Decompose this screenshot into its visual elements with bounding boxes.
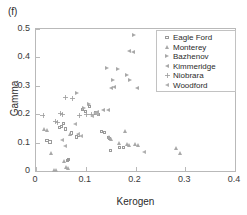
x-axis-label: Kerogen (35, 196, 236, 207)
legend-marker-icon (161, 52, 173, 61)
x-tick (235, 167, 236, 171)
panel-label: (f) (8, 6, 17, 18)
legend-item[interactable]: Kimmeridge (157, 62, 235, 72)
legend-marker-icon (161, 71, 173, 80)
legend-item[interactable]: Bazhenov (157, 52, 235, 62)
legend-item[interactable]: Niobrara (157, 71, 235, 81)
legend-item-label: Niobrara (173, 71, 204, 80)
legend-item-label: Kimmeridge (173, 62, 216, 71)
x-tick-label: 0.4 (228, 174, 241, 184)
y-tick (36, 114, 40, 115)
x-tick-label: 0 (32, 174, 37, 184)
legend-marker-icon (161, 33, 173, 42)
legend-marker-icon (161, 43, 173, 52)
y-tick (36, 86, 40, 87)
x-tick-label: 0.1 (78, 174, 91, 184)
legend-marker-icon (161, 62, 173, 71)
legend-item-label: Woodford (173, 81, 208, 90)
legend-marker-icon (161, 81, 173, 90)
x-tick (136, 167, 137, 171)
legend-item-label: Monterey (173, 43, 206, 52)
y-tick-label: 0.5 (6, 23, 30, 33)
scatter-figure: (f) 00.10.20.30.4 00.10.20.30.40.5 Kerog… (0, 0, 247, 215)
y-tick (36, 143, 40, 144)
legend-item[interactable]: Woodford (157, 81, 235, 91)
y-axis-label: Gamma (9, 69, 20, 129)
legend-item[interactable]: Monterey (157, 43, 235, 53)
y-tick (36, 171, 40, 172)
x-tick-label: 0.3 (178, 174, 191, 184)
x-tick-label: 0.2 (128, 174, 141, 184)
legend: Eagle FordMontereyBazhenovKimmeridgeNiob… (156, 30, 236, 92)
y-tick-label: 0.4 (6, 51, 30, 61)
y-tick-label: 0 (6, 165, 30, 175)
legend-item-label: Eagle Ford (173, 33, 212, 42)
x-tick (86, 167, 87, 171)
legend-item-label: Bazhenov (173, 52, 209, 61)
y-tick (36, 29, 40, 30)
x-tick (185, 167, 186, 171)
y-tick (36, 57, 40, 58)
y-tick-label: 0.1 (6, 137, 30, 147)
legend-item[interactable]: Eagle Ford (157, 33, 235, 43)
